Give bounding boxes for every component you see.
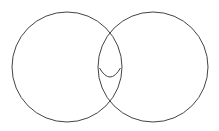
venn-diagram	[0, 0, 219, 131]
inner-arc	[100, 68, 121, 77]
left-circle	[12, 12, 122, 122]
right-circle	[98, 12, 208, 122]
